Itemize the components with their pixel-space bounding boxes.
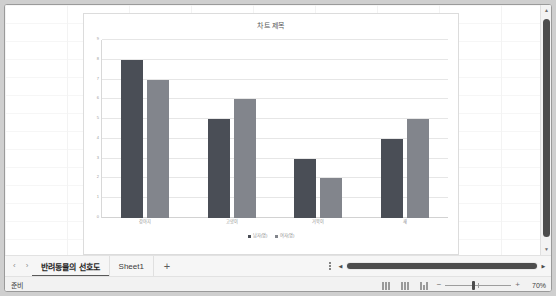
bar-group <box>275 40 362 218</box>
page-layout-view-icon[interactable] <box>400 281 410 290</box>
dot <box>329 268 331 270</box>
zoom-in-button[interactable]: + <box>515 281 520 289</box>
zoom-out-button[interactable]: − <box>437 281 442 289</box>
bar <box>388 282 390 290</box>
bar <box>407 282 409 290</box>
bar[interactable] <box>294 159 316 218</box>
bar-group <box>102 40 189 218</box>
x-axis-labels: 강아지고양이거북이새 <box>102 220 448 224</box>
sheet-tab[interactable]: Sheet1 <box>110 256 154 277</box>
bar[interactable] <box>320 178 342 218</box>
horizontal-scrollbar[interactable]: ◀ ▶ <box>337 262 552 270</box>
add-sheet-button[interactable]: + <box>154 261 180 272</box>
sheet-tabs: 반려동물의 선호도Sheet1 <box>32 256 154 277</box>
horizontal-scroll-track[interactable] <box>346 262 538 270</box>
chart-plot-area: 0123456789 <box>102 40 448 218</box>
sheet-tab-bar: ‹ › 반려동물의 선호도Sheet1 + ◀ ▶ <box>5 255 552 276</box>
bar-group <box>362 40 449 218</box>
page-break-preview-icon[interactable] <box>419 281 429 290</box>
legend-item[interactable]: 남자(명) <box>248 234 268 238</box>
bar[interactable] <box>234 99 256 218</box>
bar[interactable] <box>147 80 169 218</box>
zoom-slider[interactable] <box>445 281 511 290</box>
bar <box>385 282 387 290</box>
chart-title[interactable]: 차트 제목 <box>84 20 458 30</box>
y-axis-tick-label: 7 <box>97 77 99 81</box>
excel-window: 차트 제목 0123456789 강아지고양이거북이새 남자(명)여자(명) ▲… <box>4 4 552 292</box>
bar[interactable] <box>407 119 429 218</box>
spreadsheet-canvas[interactable]: 차트 제목 0123456789 강아지고양이거북이새 남자(명)여자(명) <box>5 5 552 255</box>
y-axis-tick-label: 0 <box>97 215 99 219</box>
sheet-nav-arrows: ‹ › <box>5 262 32 270</box>
scroll-up-icon[interactable]: ▲ <box>541 5 552 16</box>
horizontal-scroll-thumb[interactable] <box>347 263 537 269</box>
chart-legend[interactable]: 남자(명)여자(명) <box>84 234 458 238</box>
x-axis-label: 거북이 <box>275 220 362 224</box>
x-axis-label: 새 <box>362 220 449 224</box>
bar <box>382 282 384 290</box>
dot <box>329 265 331 267</box>
bar[interactable] <box>381 139 403 218</box>
x-axis-label: 고양이 <box>189 220 276 224</box>
zoom-level-label[interactable]: 70% <box>524 282 546 289</box>
legend-swatch <box>275 235 278 238</box>
sheet-tab[interactable]: 반려동물의 선호도 <box>32 256 109 277</box>
bar <box>426 282 428 290</box>
legend-label: 여자(명) <box>280 234 295 238</box>
bar <box>423 285 425 290</box>
normal-view-icon[interactable] <box>381 281 391 290</box>
zoom-slider-thumb[interactable] <box>472 281 475 290</box>
bar <box>401 282 403 290</box>
chart-bars <box>102 40 448 218</box>
bar[interactable] <box>121 60 143 218</box>
chart-object[interactable]: 차트 제목 0123456789 강아지고양이거북이새 남자(명)여자(명) <box>83 13 459 255</box>
scroll-down-icon[interactable]: ▼ <box>541 244 552 255</box>
y-axis-tick-label: 5 <box>97 116 99 120</box>
scroll-left-icon[interactable]: ◀ <box>337 264 344 269</box>
y-axis-tick-label: 2 <box>97 175 99 179</box>
scroll-right-icon[interactable]: ▶ <box>540 264 547 269</box>
tab-options-icon[interactable] <box>323 262 337 270</box>
dot <box>329 262 331 264</box>
vertical-scrollbar[interactable]: ▲ ▼ <box>540 5 551 255</box>
previous-sheet-icon[interactable]: ‹ <box>13 262 16 270</box>
vertical-scroll-thumb[interactable] <box>543 19 550 237</box>
y-axis-tick-label: 1 <box>97 195 99 199</box>
y-axis-tick-label: 6 <box>97 96 99 100</box>
bar[interactable] <box>208 119 230 218</box>
y-axis-tick-label: 9 <box>97 37 99 41</box>
legend-label: 남자(명) <box>253 234 268 238</box>
view-mode-buttons <box>381 281 437 290</box>
zoom-control: − + 70% <box>437 281 552 290</box>
y-axis-tick-label: 3 <box>97 156 99 160</box>
bar <box>420 282 422 290</box>
status-bar: 준비 − <box>5 276 552 292</box>
legend-item[interactable]: 여자(명) <box>275 234 295 238</box>
legend-swatch <box>248 235 251 238</box>
bar <box>404 282 406 290</box>
status-text: 준비 <box>5 280 23 290</box>
x-axis-label: 강아지 <box>102 220 189 224</box>
y-axis-tick-label: 4 <box>97 136 99 140</box>
y-axis-tick-label: 8 <box>97 57 99 61</box>
next-sheet-icon[interactable]: › <box>26 262 29 270</box>
app-root: 차트 제목 0123456789 강아지고양이거북이새 남자(명)여자(명) ▲… <box>0 0 556 296</box>
bar-group <box>189 40 276 218</box>
zoom-slider-midpoint <box>478 283 479 288</box>
